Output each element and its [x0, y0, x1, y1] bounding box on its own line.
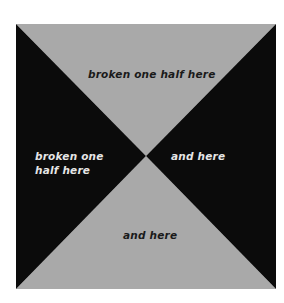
top-region-label: broken one half here	[88, 67, 216, 81]
right-region-label: and here	[171, 149, 225, 163]
bottom-region-label: and here	[123, 228, 177, 242]
left-region-label: broken one half here	[35, 149, 125, 177]
